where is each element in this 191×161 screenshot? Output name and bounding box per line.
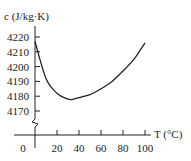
axis-break-icon bbox=[32, 119, 38, 127]
y-tick-label: 4220 bbox=[7, 31, 30, 43]
y-tick-label: 4170 bbox=[7, 105, 30, 117]
y-tick-label: 4210 bbox=[7, 46, 30, 58]
x-tick-label: 100 bbox=[137, 142, 154, 154]
chart: c (J/kg·K) 417041804190420042104220 0204… bbox=[0, 0, 191, 161]
x-tick-label: 80 bbox=[118, 142, 130, 154]
y-tick-label: 4200 bbox=[7, 61, 30, 73]
x-axis-label: T (°C) bbox=[154, 128, 183, 141]
x-tick-label: 60 bbox=[96, 142, 108, 154]
x-ticks: 020406080100 bbox=[20, 130, 154, 154]
y-axis-label: c (J/kg·K) bbox=[4, 10, 49, 23]
x-tick-label: 40 bbox=[74, 142, 86, 154]
x-tick-label: 0 bbox=[20, 142, 26, 154]
data-line bbox=[35, 41, 145, 99]
y-tick-label: 4190 bbox=[7, 75, 30, 87]
y-tick-label: 4180 bbox=[7, 90, 30, 102]
x-tick-label: 20 bbox=[52, 142, 64, 154]
